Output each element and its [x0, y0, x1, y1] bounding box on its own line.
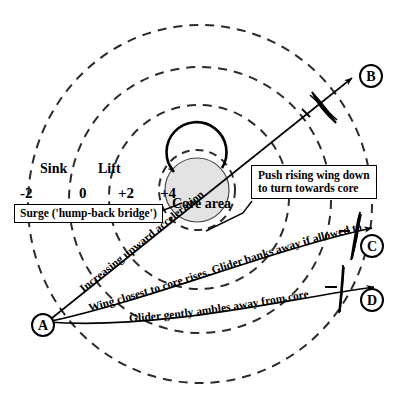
- marker-c: C: [361, 235, 383, 257]
- callout-surge-text: Surge ('hump-back bridge'): [20, 207, 157, 219]
- callout-surge: Surge ('hump-back bridge'): [14, 204, 163, 223]
- glider-icon-b: [302, 92, 337, 123]
- callout-push-wing: Push rising wing down to turn towards co…: [251, 165, 377, 199]
- svg-text:B: B: [366, 69, 375, 84]
- scale-value-minus2: -2: [20, 185, 33, 202]
- glider-icon-d: [325, 265, 344, 313]
- core-area-label: Core area: [172, 196, 231, 212]
- region-label-sink: Sink: [40, 161, 67, 177]
- scale-value-plus2: +2: [118, 185, 134, 202]
- callout-push-wing-line2: to turn towards core: [258, 182, 370, 195]
- region-label-lift: Lift: [98, 161, 121, 177]
- marker-a: A: [32, 314, 54, 336]
- svg-text:D: D: [367, 293, 377, 308]
- marker-d: D: [361, 289, 383, 311]
- diagram-canvas: Increasing upward acceleration Wing clos…: [0, 0, 401, 397]
- svg-text:C: C: [367, 239, 377, 254]
- svg-text:A: A: [38, 318, 49, 333]
- marker-b: B: [360, 65, 382, 87]
- callout-push-wing-line1: Push rising wing down: [258, 169, 370, 182]
- scale-value-0: 0: [79, 185, 87, 202]
- path-label-c: Wing closest to core rises. Glider banks…: [87, 220, 363, 313]
